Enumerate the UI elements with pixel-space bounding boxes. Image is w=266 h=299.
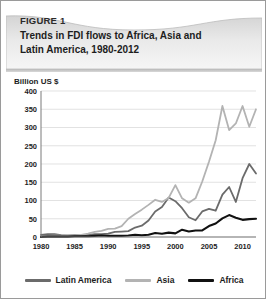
y-axis-tick-label: 250 (24, 142, 37, 151)
x-axis-tick-label: 1985 (66, 242, 83, 251)
legend-item-latin-america: Latin America (25, 275, 112, 285)
y-axis-tick-label: 150 (24, 178, 37, 187)
x-axis-tick-label: 1980 (33, 242, 50, 251)
y-axis-tick-label: 400 (24, 87, 37, 96)
chart-legend: Latin AmericaAsiaAfrica (6, 267, 262, 293)
figure-label: FIGURE 1 (20, 14, 250, 27)
header-text-block: FIGURE 1 Trends in FDI flows to Africa, … (20, 14, 250, 57)
x-axis-tick-label: 2010 (234, 242, 251, 251)
legend-label: Latin America (56, 275, 112, 285)
figure-title-line1: Trends in FDI flows to Africa, Asia and (20, 29, 250, 43)
x-axis-tick-label: 2000 (167, 242, 184, 251)
x-axis-tick-labels: 1980198519901995200020052010 (33, 242, 251, 251)
series-line-latin-america (41, 164, 256, 236)
legend-swatch-icon (188, 279, 214, 282)
legend-item-africa: Africa (188, 275, 243, 285)
line-chart: Billion US $ 050100150200250300350400 19… (6, 73, 262, 263)
y-axis-tick-label: 50 (29, 215, 37, 224)
y-axis-tick-label: 300 (24, 123, 37, 132)
figure-header: FIGURE 1 Trends in FDI flows to Africa, … (6, 6, 262, 69)
y-axis-tick-label: 100 (24, 196, 37, 205)
figure-title-line2: Latin America, 1980-2012 (20, 43, 250, 57)
legend-label: Asia (156, 275, 174, 285)
legend-swatch-icon (25, 279, 51, 282)
x-axis-tick-label: 1990 (100, 242, 117, 251)
y-axis-title: Billion US $ (14, 77, 59, 86)
x-axis-tick-label: 1995 (133, 242, 150, 251)
legend-swatch-icon (125, 279, 151, 282)
x-axis-tick-label: 2005 (201, 242, 218, 251)
y-axis-tick-label: 200 (24, 160, 37, 169)
legend-item-asia: Asia (125, 275, 174, 285)
y-axis-tick-label: 350 (24, 105, 37, 114)
figure-card: FIGURE 1 Trends in FDI flows to Africa, … (0, 0, 266, 299)
header-divider (6, 69, 262, 72)
chart-plot-area: Billion US $ 050100150200250300350400 19… (6, 73, 262, 263)
series-line-africa (41, 215, 256, 237)
y-axis-tick-label: 0 (33, 233, 37, 242)
data-series-group (41, 106, 256, 237)
legend-label: Africa (219, 275, 243, 285)
y-axis-tick-labels: 050100150200250300350400 (24, 87, 37, 242)
